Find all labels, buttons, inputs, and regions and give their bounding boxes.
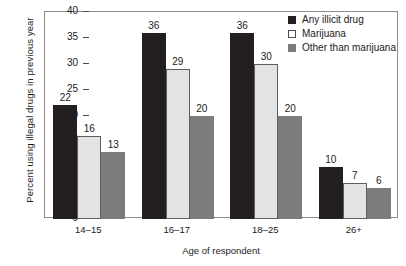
bar-value-label: 20 xyxy=(270,103,310,114)
legend-label: Marijuana xyxy=(302,27,346,40)
bar xyxy=(278,116,302,220)
bar xyxy=(343,183,367,219)
bar-value-label: 22 xyxy=(45,92,85,103)
bar xyxy=(190,116,214,220)
bar-value-label: 29 xyxy=(158,56,198,67)
y-tick-label: 35 xyxy=(45,31,78,42)
y-tick-mark xyxy=(83,115,89,116)
x-axis-title: Age of respondent xyxy=(44,245,398,256)
bar xyxy=(101,152,125,219)
y-tick-mark xyxy=(83,89,89,90)
bar xyxy=(166,69,190,219)
bar-chart: Percent using illegal drugs in previous … xyxy=(0,0,406,266)
legend-swatch-icon xyxy=(288,44,296,52)
bar-value-label: 16 xyxy=(69,123,109,134)
bar-value-label: 30 xyxy=(246,51,286,62)
legend-label: Other than marijuana xyxy=(302,41,396,54)
x-tick-label: 18–25 xyxy=(221,224,310,235)
bar-value-label: 36 xyxy=(222,20,262,31)
bar-value-label: 10 xyxy=(311,154,351,165)
legend-label: Any illicit drug xyxy=(302,13,364,26)
y-tick-mark xyxy=(83,11,89,12)
legend-swatch-icon xyxy=(288,16,296,24)
y-tick-label: 40 xyxy=(45,5,78,16)
bar-value-label: 6 xyxy=(359,175,399,186)
y-tick-label: 30 xyxy=(45,57,78,68)
y-axis-title: Percent using illegal drugs in previous … xyxy=(25,2,35,218)
y-tick-mark xyxy=(83,37,89,38)
x-tick-label: 26+ xyxy=(310,224,399,235)
legend-swatch-icon xyxy=(288,30,296,38)
x-tick-label: 14–15 xyxy=(44,224,133,235)
y-tick-mark xyxy=(83,63,89,64)
x-tick-label: 16–17 xyxy=(133,224,222,235)
bar-value-label: 20 xyxy=(182,103,222,114)
bar-value-label: 13 xyxy=(93,139,133,150)
bar-value-label: 36 xyxy=(134,20,174,31)
bar xyxy=(254,64,278,219)
bar xyxy=(367,188,391,219)
